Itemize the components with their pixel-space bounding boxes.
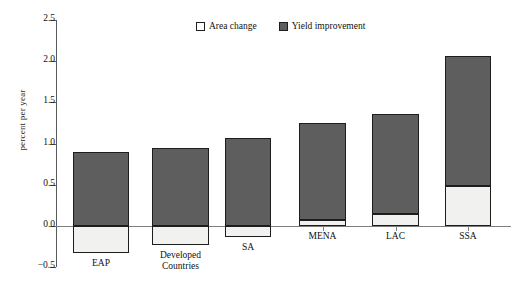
bar-segment-area-change[interactable] <box>299 220 346 226</box>
legend-item-area-change: Area change <box>196 21 257 31</box>
x-category-label: Developed Countries <box>131 250 231 272</box>
area-change-swatch-icon <box>196 22 205 31</box>
bar-segment-area-change[interactable] <box>225 226 271 237</box>
y-tick-label: 1.0 <box>15 138 55 148</box>
y-axis-title: percent per year <box>17 60 27 180</box>
bar-segment-yield-improvement[interactable] <box>73 152 129 226</box>
y-tick-label: 1.5 <box>15 96 55 106</box>
y-tick-label: 0.5 <box>15 179 55 189</box>
y-tick-label: 2.0 <box>15 55 55 65</box>
x-category-label: SSA <box>418 231 518 242</box>
bar-segment-yield-improvement[interactable] <box>299 123 346 220</box>
y-tick-label: 2.5 <box>15 14 55 24</box>
y-tick-label: −0.5 <box>15 261 55 271</box>
x-category-label: SA <box>198 242 298 253</box>
bar-segment-yield-improvement[interactable] <box>372 114 419 215</box>
chart-container: percent per year −0.50.00.51.01.52.02.5 … <box>0 0 521 285</box>
bar-segment-yield-improvement[interactable] <box>152 148 209 226</box>
y-axis-line <box>56 20 57 267</box>
chart-legend: Area change Yield improvement <box>196 21 365 31</box>
bar-segment-area-change[interactable] <box>73 226 129 253</box>
bar-segment-yield-improvement[interactable] <box>445 56 491 186</box>
legend-item-yield-improvement: Yield improvement <box>279 21 366 31</box>
bar-segment-area-change[interactable] <box>445 186 491 226</box>
y-tick-label: 0.0 <box>15 220 55 230</box>
yield-improvement-swatch-icon <box>279 22 288 31</box>
legend-label-area-change: Area change <box>209 21 257 31</box>
legend-label-yield-improvement: Yield improvement <box>292 21 366 31</box>
bar-segment-yield-improvement[interactable] <box>225 138 271 226</box>
bar-segment-area-change[interactable] <box>372 214 419 226</box>
